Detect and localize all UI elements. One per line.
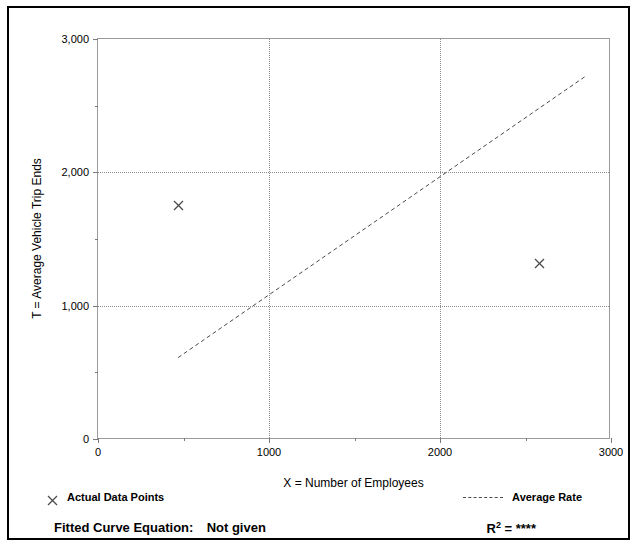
y-axis-title-label: T = Average Vehicle Trip Ends	[29, 38, 45, 439]
plot-area: 3,000 2,000 1,000 0 0 1000 2000	[97, 38, 610, 439]
fitted-curve-value: Not given	[207, 520, 266, 535]
average-rate-line	[98, 39, 609, 438]
clipped-header-text: Land Use: Commercial	[14, 0, 314, 1]
ytick-label-2000: 2,000	[61, 166, 89, 178]
data-point-marker	[534, 258, 545, 269]
x-axis-title: X = Number of Employees	[97, 476, 610, 490]
x-marker-icon	[47, 492, 58, 503]
xtick-minor-1500	[355, 438, 356, 441]
xtick-minor-2500	[526, 438, 527, 441]
xtick-3000	[611, 438, 612, 443]
xtick-label-0: 0	[95, 446, 101, 458]
fitted-curve-equation: Fitted Curve Equation: Not given	[54, 520, 266, 535]
ytick-label-0: 0	[83, 433, 89, 445]
xtick-2000	[440, 438, 441, 443]
r-squared-stat: R2 = ****	[487, 520, 536, 536]
r-squared-prefix: R	[487, 521, 496, 536]
legend-actual-data-points: Actual Data Points	[47, 491, 164, 503]
xtick-1000	[269, 438, 270, 443]
data-point-marker	[173, 200, 184, 211]
xtick-0	[98, 438, 99, 443]
dashed-line-icon	[463, 497, 503, 498]
legend-row-stats: Fitted Curve Equation: Not given R2 = **…	[9, 520, 628, 542]
xtick-label-2000: 2000	[428, 446, 452, 458]
xtick-label-1000: 1000	[257, 446, 281, 458]
legend-label-actual-data-points: Actual Data Points	[67, 491, 164, 503]
ytick-label-3000: 3,000	[61, 33, 89, 45]
legend-average-rate: Average Rate	[463, 491, 582, 503]
page-frame: T = Average Vehicle Trip Ends 3,000 2,00…	[7, 6, 630, 540]
chart-area: T = Average Vehicle Trip Ends 3,000 2,00…	[9, 8, 628, 478]
xtick-label-3000: 3000	[599, 446, 623, 458]
r-squared-equals: =	[501, 521, 516, 536]
legend-row-series: Actual Data Points Average Rate	[9, 491, 628, 511]
legend-label-average-rate: Average Rate	[512, 491, 582, 503]
ytick-label-1000: 1,000	[61, 300, 89, 312]
r-squared-value: ****	[516, 521, 536, 536]
plot-inner: 3,000 2,000 1,000 0 0 1000 2000	[98, 39, 609, 438]
xtick-minor-500	[184, 438, 185, 441]
fitted-curve-label: Fitted Curve Equation:	[54, 520, 193, 535]
